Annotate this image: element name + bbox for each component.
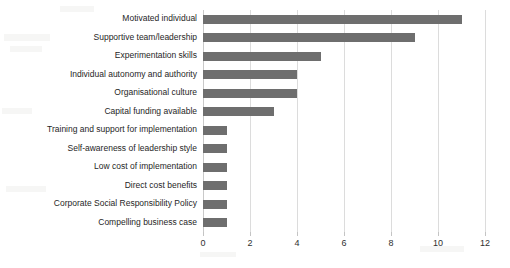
x-axis-tick-label: 12 [473,238,497,248]
gridline-x-6 [344,10,345,232]
y-axis-category-label: Supportive team/leadership [2,33,197,42]
gridline-x-10 [438,10,439,232]
bar [203,144,227,153]
bar [203,15,462,24]
y-axis-category-label: Self-awareness of leadership style [2,144,197,153]
gridline-x-4 [297,10,298,232]
bar [203,89,297,98]
tick-mark-x-0 [203,232,204,236]
x-axis-tick-label: 8 [379,238,403,248]
x-axis-tick-label: 2 [238,238,262,248]
bar [203,52,321,61]
y-axis-category-label: Direct cost benefits [2,181,197,190]
tick-mark-x-12 [485,232,486,236]
x-axis-tick-label: 10 [426,238,450,248]
gridline-x-2 [250,10,251,232]
tick-mark-x-6 [344,232,345,236]
plot-area: 024681012Motivated individualSupportive … [203,10,485,232]
tick-mark-x-8 [391,232,392,236]
y-axis-category-label: Motivated individual [2,14,197,23]
bar [203,70,297,79]
bar [203,33,415,42]
bar [203,200,227,209]
gridline-x-0 [203,10,204,232]
y-axis-category-label: Organisational culture [2,88,197,97]
y-axis-category-label: Individual autonomy and authority [2,70,197,79]
tick-mark-x-4 [297,232,298,236]
y-axis-category-label: Compelling business case [2,218,197,227]
y-axis-category-label: Low cost of implementation [2,162,197,171]
y-axis-category-label: Training and support for implementation [2,125,197,134]
bar-chart-figure: 024681012Motivated individualSupportive … [0,0,510,268]
y-axis-category-label: Corporate Social Responsibility Policy [2,199,197,208]
x-axis-tick-label: 4 [285,238,309,248]
bar [203,163,227,172]
bar [203,126,227,135]
x-axis-tick-label: 0 [191,238,215,248]
gridline-x-12 [485,10,486,232]
tick-mark-x-10 [438,232,439,236]
bar [203,181,227,190]
tick-mark-x-2 [250,232,251,236]
gridline-x-8 [391,10,392,232]
bar [203,218,227,227]
x-axis-tick-label: 6 [332,238,356,248]
y-axis-category-label: Capital funding available [2,107,197,116]
chart-title [0,0,510,2]
y-axis-category-label: Experimentation skills [2,51,197,60]
bar [203,107,274,116]
